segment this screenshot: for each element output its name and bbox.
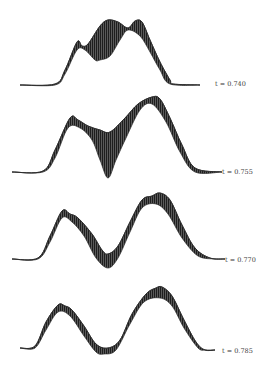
panel-label-t0755: t = 0.755 (222, 168, 253, 176)
waveform-panel-1 (20, 20, 200, 86)
hatched-band (20, 286, 215, 354)
hatched-band (20, 20, 200, 86)
waveform-panel-4 (20, 286, 215, 354)
hatched-band (12, 96, 222, 178)
waveform-panel-3 (12, 193, 225, 268)
waveform-figure: t = 0.740 t = 0.755 t = 0.770 t = 0.785 (0, 0, 269, 376)
hatched-band (12, 193, 225, 268)
panel-label-t0770: t = 0.770 (225, 256, 256, 264)
waveform-panel-2 (12, 96, 222, 178)
panel-label-t0785: t = 0.785 (222, 347, 253, 355)
panel-label-t0740: t = 0.740 (215, 80, 246, 88)
waveform-plot (0, 0, 269, 376)
